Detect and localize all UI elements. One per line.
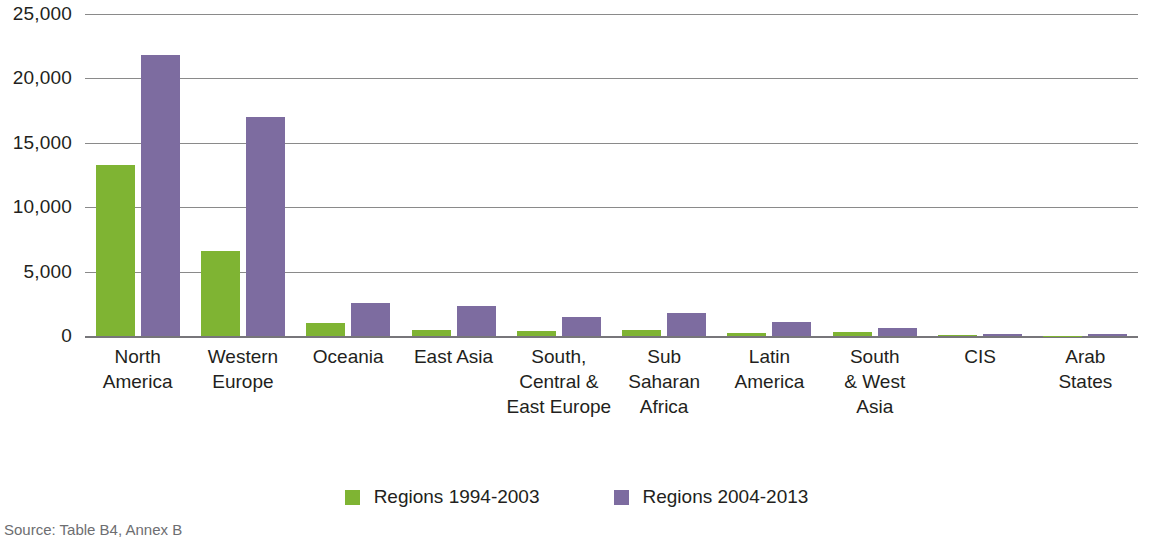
bar-group xyxy=(401,14,506,336)
x-tick-label-line: Latin xyxy=(717,344,822,369)
x-tick-label-line: Western xyxy=(190,344,295,369)
legend-item[interactable]: Regions 1994-2003 xyxy=(345,486,540,508)
y-tick-label: 25,000 xyxy=(13,3,72,25)
bar-series-a[interactable] xyxy=(96,165,135,336)
x-tick-label-line: CIS xyxy=(927,344,1032,369)
y-tick-label: 10,000 xyxy=(13,196,72,218)
x-tick-label-line: Europe xyxy=(190,369,295,394)
legend-item[interactable]: Regions 2004-2013 xyxy=(614,486,809,508)
x-tick-label-line: South, xyxy=(506,344,611,369)
bar-series-b[interactable] xyxy=(667,313,706,336)
x-tick-label: South& WestAsia xyxy=(822,344,927,419)
y-tick-label: 20,000 xyxy=(13,67,72,89)
bar-series-b[interactable] xyxy=(246,117,285,336)
y-axis-labels: 05,00010,00015,00020,00025,000 xyxy=(0,0,72,350)
axis-baseline xyxy=(85,336,1138,338)
bar-series-b[interactable] xyxy=(1088,334,1127,336)
x-tick-label-line: States xyxy=(1033,369,1138,394)
x-tick-label-line: East Asia xyxy=(401,344,506,369)
bar-series-b[interactable] xyxy=(772,322,811,336)
x-tick-label-line: South xyxy=(822,344,927,369)
y-tick-label: 0 xyxy=(61,325,72,347)
bar-series-a[interactable] xyxy=(727,333,766,336)
x-tick-label: Oceania xyxy=(296,344,401,369)
bar-series-a[interactable] xyxy=(622,330,661,336)
bar-series-b[interactable] xyxy=(562,317,601,336)
legend-label: Regions 2004-2013 xyxy=(643,486,809,508)
legend-label: Regions 1994-2003 xyxy=(374,486,540,508)
x-tick-label-line: Arab xyxy=(1033,344,1138,369)
source-note: Source: Table B4, Annex B xyxy=(4,521,182,537)
bar-series-a[interactable] xyxy=(833,332,872,336)
legend-swatch-icon xyxy=(345,490,360,505)
x-tick-label-line: East Europe xyxy=(506,394,611,419)
bar-series-b[interactable] xyxy=(878,328,917,336)
bar-series-b[interactable] xyxy=(983,334,1022,336)
x-tick-label-line: Sub xyxy=(612,344,717,369)
bar-groups xyxy=(85,14,1138,336)
bar-series-a[interactable] xyxy=(412,330,451,336)
x-tick-label-line: Central & xyxy=(506,369,611,394)
bar-group xyxy=(822,14,927,336)
x-tick-label-line: North xyxy=(85,344,190,369)
x-tick-label: SubSaharanAfrica xyxy=(612,344,717,419)
bar-series-a[interactable] xyxy=(517,331,556,336)
y-tick-label: 5,000 xyxy=(23,261,72,283)
x-tick-label-line: Oceania xyxy=(296,344,401,369)
y-tick-label: 15,000 xyxy=(13,132,72,154)
bar-group xyxy=(612,14,717,336)
x-tick-label: CIS xyxy=(927,344,1032,369)
x-axis-labels: NorthAmericaWesternEuropeOceaniaEast Asi… xyxy=(85,344,1138,454)
bar-series-a[interactable] xyxy=(938,335,977,336)
chart-legend: Regions 1994-2003Regions 2004-2013 xyxy=(0,486,1153,508)
bar-group xyxy=(927,14,1032,336)
bar-series-b[interactable] xyxy=(141,55,180,336)
x-tick-label-line: America xyxy=(85,369,190,394)
x-tick-label: South,Central &East Europe xyxy=(506,344,611,419)
bar-group xyxy=(85,14,190,336)
x-tick-label: LatinAmerica xyxy=(717,344,822,394)
x-tick-label: WesternEurope xyxy=(190,344,295,394)
x-tick-label-line: America xyxy=(717,369,822,394)
bar-series-a[interactable] xyxy=(306,323,345,336)
bar-series-b[interactable] xyxy=(351,303,390,336)
x-tick-label-line: Africa xyxy=(612,394,717,419)
x-tick-label: East Asia xyxy=(401,344,506,369)
x-tick-label: NorthAmerica xyxy=(85,344,190,394)
legend-swatch-icon xyxy=(614,490,629,505)
bar-group xyxy=(1033,14,1138,336)
x-tick-label-line: Asia xyxy=(822,394,927,419)
x-tick-label: ArabStates xyxy=(1033,344,1138,394)
bar-group xyxy=(506,14,611,336)
x-tick-label-line: Saharan xyxy=(612,369,717,394)
bar-group xyxy=(190,14,295,336)
bar-chart: 05,00010,00015,00020,00025,000 NorthAmer… xyxy=(0,0,1153,537)
bar-series-b[interactable] xyxy=(457,306,496,336)
bar-group xyxy=(296,14,401,336)
bar-series-a[interactable] xyxy=(201,251,240,336)
bar-group xyxy=(717,14,822,336)
x-tick-label-line: & West xyxy=(822,369,927,394)
